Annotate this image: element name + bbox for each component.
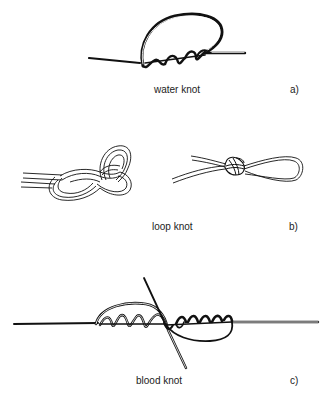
water-knot-drawing (89, 14, 245, 67)
panel-c-letter: c) (290, 375, 298, 387)
panel-a-letter: a) (290, 84, 299, 96)
panel-b-letter: b) (289, 221, 298, 233)
panel-b-label: loop knot (152, 221, 193, 233)
knot-diagram: water knot a) loop knot b) blood knot c) (0, 0, 324, 412)
loop-knot-drawing-right (172, 156, 303, 183)
blood-knot-drawing (14, 278, 318, 368)
knot-illustrations (0, 0, 324, 412)
panel-c-label: blood knot (136, 375, 182, 387)
panel-a-label: water knot (154, 84, 200, 96)
loop-knot-drawing-left (21, 146, 131, 201)
